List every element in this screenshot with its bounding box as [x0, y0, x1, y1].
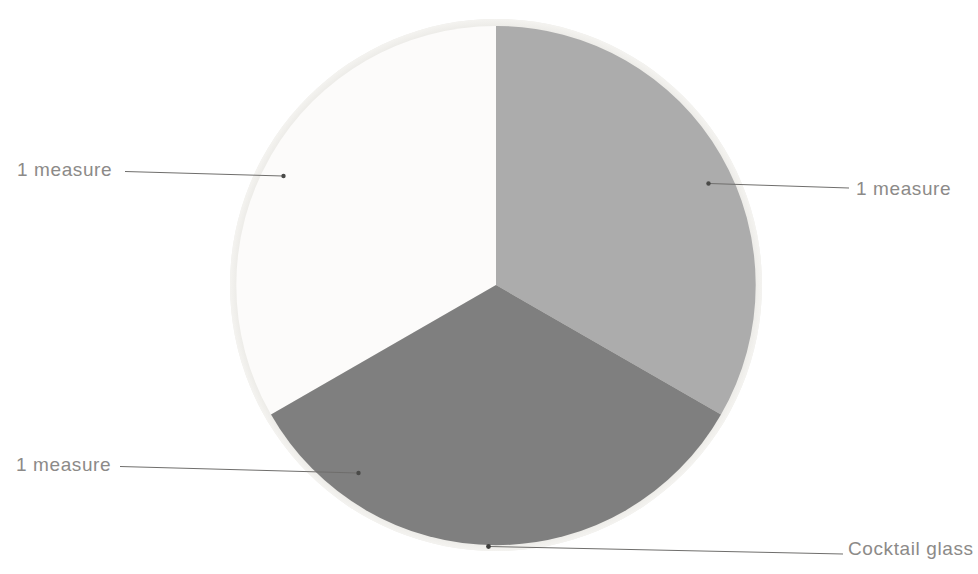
callout-label-right-measure: 1 measure	[856, 179, 951, 198]
callout-label-cocktail-glass: Cocktail glass	[848, 539, 974, 558]
leader-dot-right	[706, 181, 710, 185]
pie-diagram-figure: 1 measure 1 measure 1 measure Cocktail g…	[0, 0, 978, 574]
callout-label-lower-left-measure: 1 measure	[16, 455, 111, 474]
leader-dot-lower-left	[356, 471, 360, 475]
leader-dot-upper-left	[281, 174, 285, 178]
callout-label-upper-left-measure: 1 measure	[17, 160, 112, 179]
leader-dot-cocktail-glass	[486, 544, 491, 549]
pie-chart-svg	[0, 0, 978, 574]
